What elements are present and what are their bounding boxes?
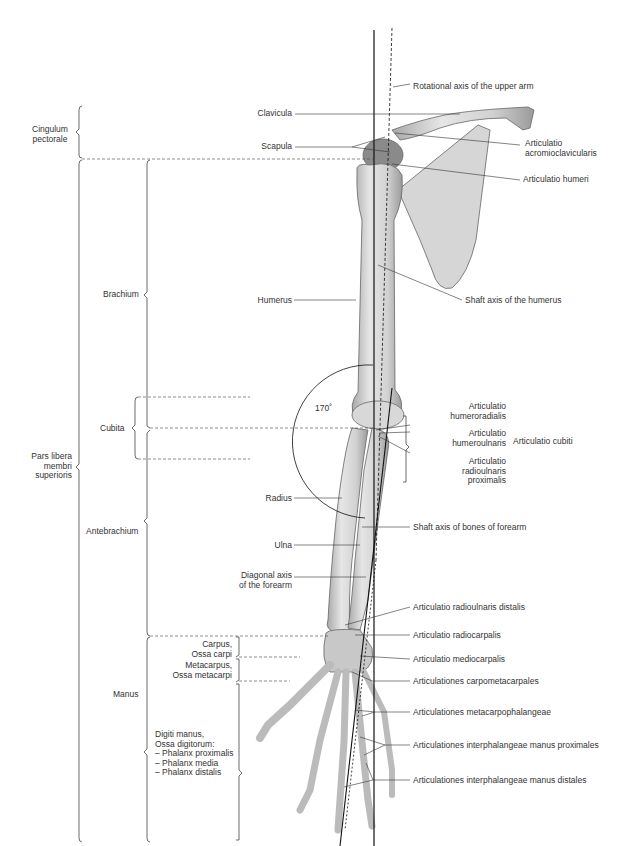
label-radioulnaris-distalis: Articulatio radioulnaris distalis	[413, 603, 525, 613]
label-scapula: Scapula	[240, 142, 292, 152]
label-clavicula: Clavicula	[240, 109, 292, 119]
label-radius: Radius	[240, 494, 292, 504]
label-cingulum-pectorale: Cingulum pectorale	[32, 125, 68, 144]
label-mediocarpalis: Articulatio mediocarpalis	[413, 655, 505, 665]
label-brachium: Brachium	[103, 290, 139, 300]
label-carpus: Carpus, Ossa carpi	[180, 640, 232, 659]
label-humerus: Humerus	[240, 296, 292, 306]
arm-skeleton-illustration	[0, 0, 628, 846]
label-rotational-axis: Rotational axis of the upper arm	[413, 82, 533, 92]
label-ulna: Ulna	[240, 541, 292, 551]
label-radioulnaris-proximalis: Articulatio radioulnaris proximalis	[440, 457, 506, 486]
label-metacarpophalangeae: Articulationes metacarpophalangeae	[413, 708, 551, 718]
label-digiti: Digiti manus, Ossa digitorum: – Phalanx …	[155, 730, 233, 778]
label-diagonal-axis: Diagonal axis of the forearm	[222, 571, 292, 590]
label-articulatio-cubiti: Articulatio cubiti	[513, 437, 573, 447]
label-humeroulnaris: Articulatio humeroulnaris	[440, 429, 506, 448]
label-angle-170: 170˚	[315, 404, 332, 414]
label-pars-libera: Pars libera membri superioris	[28, 452, 72, 481]
label-radiocarpalis: Articulatio radiocarpalis	[413, 631, 501, 641]
label-shaft-forearm: Shaft axis of bones of forearm	[413, 523, 526, 533]
label-metacarpus: Metacarpus, Ossa metacarpi	[162, 661, 232, 680]
label-acromioclavicularis: Articulatio acromioclavicularis	[525, 139, 597, 158]
label-interphalangeae-proximales: Articulationes interphalangeae manus pro…	[413, 741, 599, 751]
label-articulatio-humeri: Articulatio humeri	[523, 175, 589, 185]
label-cubita: Cubita	[100, 424, 125, 434]
label-interphalangeae-distales: Articulationes interphalangeae manus dis…	[413, 776, 586, 786]
label-humeroradialis: Articulatio humeroradialis	[440, 402, 506, 421]
label-manus: Manus	[113, 690, 139, 700]
label-shaft-humerus: Shaft axis of the humerus	[465, 296, 561, 306]
label-antebrachium: Antebrachium	[86, 527, 138, 537]
label-carpometacarpales: Articulationes carpometacarpales	[413, 677, 539, 687]
